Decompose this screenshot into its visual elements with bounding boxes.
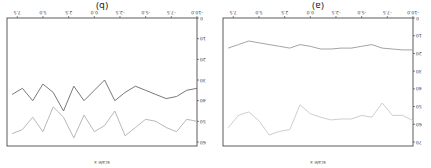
y-tick-label: 50 bbox=[416, 104, 422, 109]
data-line bbox=[12, 80, 197, 111]
y-tick-label: 40 bbox=[416, 86, 422, 91]
x-tick-label: 2.5 bbox=[281, 10, 288, 15]
chart-title: (a) bbox=[312, 1, 325, 11]
x-axis-label: scale x bbox=[310, 160, 326, 165]
y-tick-label: 10 bbox=[200, 36, 206, 41]
chart-title: (b) bbox=[96, 1, 109, 11]
y-tick-label: 30 bbox=[416, 69, 422, 74]
x-tick-label: -5.0 bbox=[141, 10, 150, 15]
figure: 010203040506070-10.0-7.5-5.0-2.50.02.55.… bbox=[0, 0, 431, 168]
x-tick-label: 2.5 bbox=[65, 10, 72, 15]
plot-frame bbox=[223, 18, 413, 146]
y-tick-label: 10 bbox=[416, 33, 422, 38]
y-tick-label: 70 bbox=[416, 140, 422, 145]
x-tick-label: -2.5 bbox=[331, 10, 340, 15]
x-tick-label: 7.5 bbox=[230, 10, 237, 15]
chart-a: 010203040506070-10.0-7.5-5.0-2.50.02.55.… bbox=[223, 1, 422, 165]
y-tick-label: 30 bbox=[200, 78, 206, 83]
y-tick-label: 20 bbox=[416, 51, 422, 56]
chart-b: 0102030405060-10.0-7.5-5.0-2.50.02.55.07… bbox=[7, 1, 206, 165]
y-tick-label: 60 bbox=[200, 140, 206, 145]
x-tick-label: -7.5 bbox=[383, 10, 392, 15]
x-tick-label: 5.0 bbox=[255, 10, 262, 15]
chart-canvas: 010203040506070-10.0-7.5-5.0-2.50.02.55.… bbox=[0, 0, 431, 168]
x-tick-label: -2.5 bbox=[115, 10, 124, 15]
y-tick-label: 0 bbox=[200, 16, 203, 21]
x-axis-label: scale x bbox=[94, 160, 110, 165]
x-tick-label: 5.0 bbox=[39, 10, 46, 15]
x-tick-label: -5.0 bbox=[357, 10, 366, 15]
data-line bbox=[228, 41, 413, 50]
y-tick-label: 0 bbox=[416, 16, 419, 21]
y-tick-label: 60 bbox=[416, 122, 422, 127]
y-tick-label: 50 bbox=[200, 119, 206, 124]
x-tick-label: 7.5 bbox=[14, 10, 21, 15]
y-tick-label: 20 bbox=[200, 57, 206, 62]
data-line bbox=[12, 107, 197, 138]
x-tick-label: -10.0 bbox=[191, 10, 203, 15]
x-tick-label: -7.5 bbox=[167, 10, 176, 15]
y-tick-label: 40 bbox=[200, 98, 206, 103]
data-line bbox=[228, 103, 413, 135]
x-tick-label: -10.0 bbox=[407, 10, 419, 15]
